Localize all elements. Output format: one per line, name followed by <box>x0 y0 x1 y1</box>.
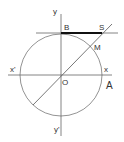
label-s: S <box>99 23 104 32</box>
label-m: M <box>94 43 101 52</box>
label-y-prime: y' <box>54 125 60 134</box>
label-b: B <box>64 23 69 32</box>
label-x-prime: x' <box>10 65 16 74</box>
line-oms <box>33 24 112 105</box>
label-y: y <box>53 7 57 16</box>
label-origin: O <box>62 78 68 87</box>
trig-circle-diagram: y y' x x' O A B S M <box>0 0 124 142</box>
label-x: x <box>104 65 108 74</box>
label-a: A <box>106 80 113 91</box>
